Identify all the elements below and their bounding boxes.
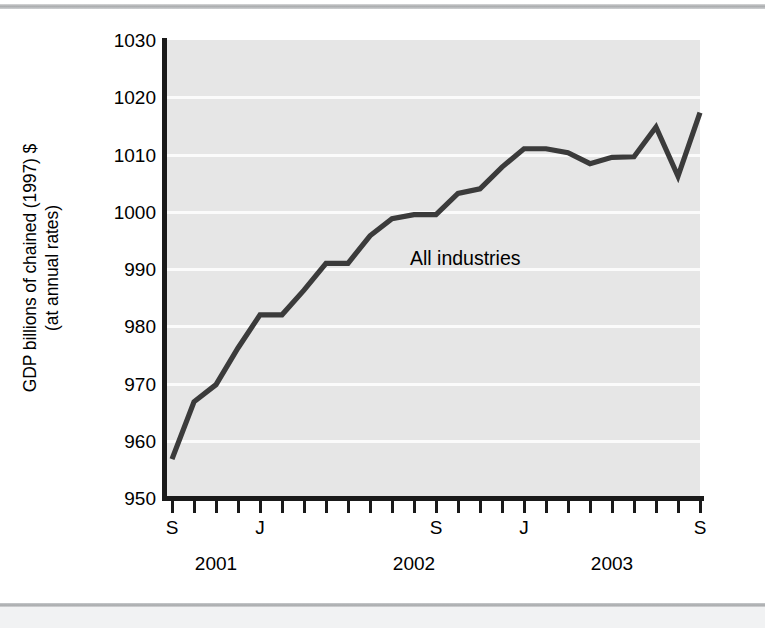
chart-figure: GDP billions of chained (1997) $ (at ann… <box>0 9 765 603</box>
series-line-all-industries <box>0 9 765 603</box>
series-annotation-all-industries: All industries <box>410 247 521 269</box>
page-band-bottom <box>0 607 765 628</box>
